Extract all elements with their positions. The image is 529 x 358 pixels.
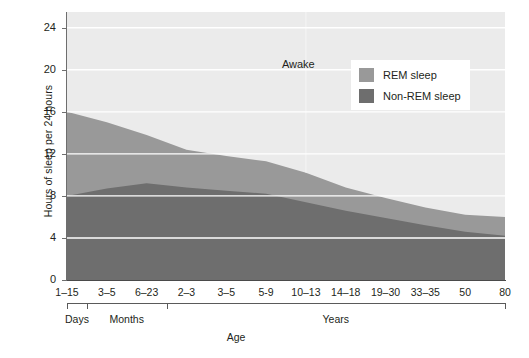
awake-annotation-label: Awake [282,58,315,70]
sleep-stages-chart: Hours of sleep per 24 hours 04812162024 … [0,0,529,358]
y-axis-tick-label: 20 [30,64,56,75]
legend-label-rem-sleep: REM sleep [383,69,437,81]
age-group-label: Years [286,313,386,325]
legend-label-non-rem-sleep: Non-REM sleep [383,90,461,102]
y-axis-tick-label: 4 [30,232,56,243]
x-axis-title: Age [206,331,266,343]
x-axis-tick-label: 80 [475,286,529,298]
age-group-bracket [67,303,505,304]
chart-legend: REM sleep Non-REM sleep [351,60,470,110]
plot-area [67,12,505,280]
legend-item-rem-sleep: REM sleep [359,66,461,83]
age-group-divider-tick [87,303,88,309]
stacked-area-svg [67,12,505,280]
x-axis-line [66,280,506,281]
age-group-divider-tick [505,303,506,309]
age-group-divider-tick [167,303,168,309]
y-axis-tick-label: 12 [30,148,56,159]
age-group-divider-tick [67,303,68,309]
y-axis-tick-label: 0 [30,274,56,285]
age-group-label: Months [77,313,177,325]
rem-sleep-swatch-icon [359,68,374,82]
y-axis-tick-label: 24 [30,22,56,33]
non-rem-sleep-swatch-icon [359,89,374,103]
legend-item-non-rem-sleep: Non-REM sleep [359,87,461,104]
y-axis-tick-mark [62,280,67,281]
y-axis-tick-label: 8 [30,190,56,201]
y-axis-tick-label: 16 [30,106,56,117]
